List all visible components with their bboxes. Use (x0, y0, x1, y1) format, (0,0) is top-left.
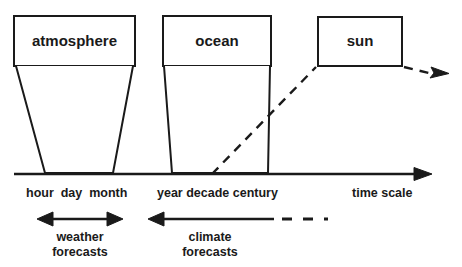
atmosphere-box-label: atmosphere (14, 33, 135, 49)
sun-box-label: sun (318, 33, 402, 49)
weather-arrowhead-left (37, 212, 53, 226)
climate-forecasts-label-line1: climate (150, 231, 270, 244)
climate-forecasts-arrow (148, 212, 328, 226)
axis-tick-group-long: year decade century (157, 187, 278, 200)
climate-arrowhead-left (148, 212, 164, 226)
ocean-funnel (164, 66, 270, 173)
axis-title: time scale (352, 187, 412, 200)
sun-forcing-dashed-exit (404, 67, 433, 74)
climate-timescale-diagram: atmosphere ocean sun hour day month year… (0, 0, 462, 267)
atmosphere-funnel (16, 66, 133, 173)
weather-forecasts-label-line2: forecasts (20, 246, 140, 259)
weather-arrowhead-right (107, 212, 123, 226)
axis-tick-group-short: hour day month (26, 187, 127, 200)
ocean-box-label: ocean (163, 33, 271, 49)
sun-forcing-arrowhead (430, 67, 449, 78)
weather-forecasts-label-line1: weather (20, 231, 140, 244)
time-axis-arrowhead (414, 168, 432, 181)
climate-forecasts-label-line2: forecasts (150, 246, 270, 259)
weather-forecasts-arrow (37, 212, 123, 226)
